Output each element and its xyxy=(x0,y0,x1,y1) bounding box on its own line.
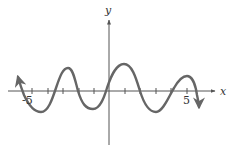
function-graph: y x -5 5 xyxy=(0,0,228,148)
tick-label-neg5: -5 xyxy=(22,94,33,107)
x-axis-label: x xyxy=(220,85,227,98)
tick-label-pos5: 5 xyxy=(183,94,190,107)
y-axis-label: y xyxy=(104,4,112,17)
